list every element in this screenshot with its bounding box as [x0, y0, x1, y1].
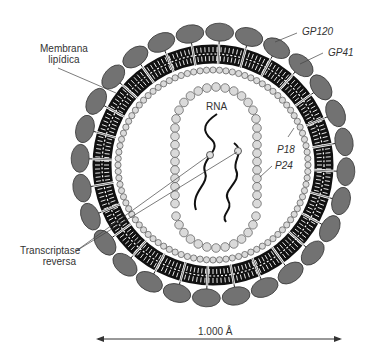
label-reverse-transcriptase: Transcriptase reversa — [20, 245, 76, 267]
label-p24: P24 — [275, 160, 293, 171]
label-scale: 1.000 Å — [198, 326, 232, 337]
label-rt-line1: Transcriptase — [20, 245, 76, 256]
label-gp120: GP120 — [302, 26, 333, 37]
rna-strands — [195, 114, 239, 222]
label-gp41: GP41 — [328, 47, 354, 58]
label-membrane: Membrana lipídica — [40, 43, 88, 65]
label-membrane-line2: lipídica — [40, 54, 88, 65]
label-rna: RNA — [206, 101, 227, 112]
gp120-ring — [70, 22, 355, 307]
reverse-transcriptase — [207, 148, 242, 159]
label-rt-line2: reversa — [20, 256, 76, 267]
label-membrane-line1: Membrana — [40, 43, 88, 54]
label-p18: P18 — [277, 144, 295, 155]
